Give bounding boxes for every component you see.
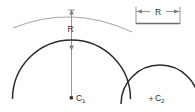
center-point-c1-marker-icon: [70, 96, 73, 99]
dimension-arrow-down-icon: [69, 46, 73, 52]
diagram-canvas: + R R C 1 C 2: [0, 0, 195, 112]
radius-construction-diagram: + R R C 1 C 2: [0, 0, 195, 112]
label-center-c1-subscript: 1: [82, 97, 86, 104]
label-radius-vertical: R: [68, 24, 74, 34]
label-center-c2-subscript: 2: [161, 97, 165, 104]
dimension-arrow-right-icon: [174, 9, 180, 13]
center-point-c2-marker-icon: +: [149, 94, 154, 104]
label-radius-horizontal: R: [155, 7, 161, 17]
dimension-arrow-left-icon: [137, 9, 143, 13]
